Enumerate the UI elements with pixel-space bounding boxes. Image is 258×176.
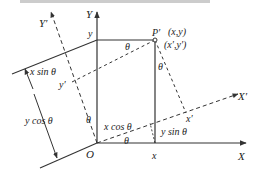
y-prime-axis-label: Y′ — [39, 17, 48, 29]
y-axis-label: Y — [86, 8, 94, 20]
angle-theta-bottom: θ — [124, 135, 129, 146]
x-cos-theta-label: x cos θ — [103, 121, 132, 132]
y-tick-label: y — [87, 28, 93, 39]
small-projection-x — [150, 123, 155, 143]
x-prime-axis-label: X′ — [237, 90, 248, 102]
origin-label: O — [86, 148, 94, 160]
x-prime-tick-label: x′ — [185, 113, 193, 124]
y-cos-arrow-down — [34, 94, 57, 158]
y-prime-tick-label: y′ — [58, 79, 66, 90]
x-tick-label: x — [151, 150, 157, 161]
projection-to-x-prime — [155, 40, 186, 113]
angle-theta-top: θ — [125, 41, 130, 52]
cropped-caption — [20, 0, 210, 3]
rotation-diagram: Y Y′ X′ X O y x x′ y′ P′ (x,y) (x′,y′) θ… — [0, 0, 258, 176]
x-sin-theta-label: x sin θ — [29, 66, 56, 77]
angle-theta-right: θ — [158, 61, 163, 72]
coords-original: (x,y) — [168, 26, 187, 38]
x-axis-label: X — [237, 150, 246, 162]
y-cos-theta-label: y cos θ — [24, 115, 53, 126]
y-sin-theta-label: y sin θ — [160, 126, 187, 137]
projection-to-y-prime — [72, 40, 155, 82]
point-p-prime — [153, 38, 157, 42]
angle-theta-left: θ — [86, 114, 91, 125]
point-p-prime-label: P′ — [151, 27, 161, 38]
coords-rotated: (x′,y′) — [164, 39, 187, 51]
